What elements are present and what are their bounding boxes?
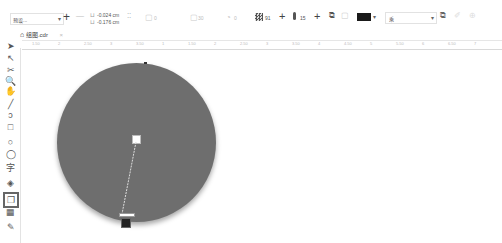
merge-mode-value: 乘 [389,15,394,22]
interactive-fill-tool-icon: ◈ [7,178,14,188]
ellipse-tool-icon: ○ [8,137,13,147]
home-icon: ⌂ [20,31,24,38]
ruler-tick-label: 3.50 [136,41,144,46]
field-3[interactable]: 0 [234,15,237,21]
document-tab[interactable]: ⌂ 组图.cdr × [20,30,63,40]
eyedropper-tool[interactable]: ✎ [4,221,17,234]
field-1[interactable]: 0 [154,15,157,21]
rectangle-tool[interactable]: □ [4,121,17,134]
ruler-tick-label: 1.50 [188,41,196,46]
opacity-slider[interactable] [119,213,135,217]
opacity-icon [255,13,263,21]
ruler-tick-label: 2.50 [240,41,248,46]
crop-tool-icon: ✂ [7,65,15,75]
shadow-direction-icon[interactable]: ▢ [145,13,153,22]
feather-icon [293,12,296,20]
ruler-tick-label: 2 [58,41,60,46]
preset-dropdown[interactable]: 预设... ▾ [10,13,64,25]
chevron-down-icon: ▾ [58,15,61,22]
pan-tool[interactable]: ✋ [4,85,17,98]
shadow-end-handle[interactable] [121,218,131,228]
shape-tool-icon: ↖ [7,53,15,63]
eyedropper-tool-icon: ✎ [7,222,15,232]
copy-shadow-icon[interactable]: ⧉ [440,11,446,21]
polygon-tool[interactable]: ◯ [4,148,17,161]
add-preset-button[interactable]: + [63,10,70,24]
shadow-color-chevron-icon[interactable]: ▾ [373,13,376,20]
pan-tool-icon: ✋ [5,86,16,96]
clear-shadow-icon[interactable]: ✐ [454,11,461,20]
ruler-tick-label: 3.50 [292,41,300,46]
document-tab-label: 组图.cdr [26,32,48,38]
preset-dropdown-value: 预设... [13,16,27,23]
opacity-increase-button[interactable]: + [279,10,285,22]
text-tool-icon: 字 [6,163,15,173]
ruler-tick-label: 1 [162,41,164,46]
ruler-tick-label: 3 [110,41,112,46]
interactive-fill-tool[interactable]: ◈ [4,177,17,190]
feather-field[interactable]: 15 [300,15,306,21]
horizontal-ruler: 1.5022.5033.5011.5022.5033.5044.5055.506… [22,40,502,50]
remove-preset-button[interactable]: — [76,11,84,20]
shadow-color-swatch[interactable] [357,13,371,21]
polygon-tool-icon: ◯ [6,149,16,159]
field-2[interactable]: 30 [198,15,204,21]
chevron-down-icon: ▾ [431,14,434,21]
transparency-tool[interactable]: ▦ [4,206,17,219]
ruler-tick-label: 7 [474,41,476,46]
remove-icon[interactable]: ⊕ [469,11,476,20]
ruler-tick-label: 4.50 [344,41,352,46]
close-tab-icon[interactable]: × [60,32,64,38]
lock-ratio-icon[interactable]: ⁚⁚ [127,12,131,20]
ruler-tick-label: 5 [370,41,372,46]
offset-y-field[interactable]: -0.176 cm [97,19,119,25]
ruler-tick-label: 3 [266,41,268,46]
transparency-tool-icon: ▦ [6,207,15,217]
feather-edges-icon[interactable]: ▢ [341,11,349,20]
offset-x-icon: ⊔ [90,11,95,18]
ruler-tick-label: 4 [318,41,320,46]
ruler-tick-label: 6.50 [448,41,456,46]
shadow-stretch-icon[interactable]: ◔ [226,13,231,22]
ruler-tick-label: 1.50 [32,41,40,46]
ruler-tick-label: 6 [422,41,424,46]
ruler-tick-label: 5.50 [396,41,404,46]
toolbox: ➤↖✂🔍✋╱ↄ□○◯字◈❐▦✎ [0,40,20,243]
top-node[interactable] [144,62,147,64]
ruler-tick-label: 2 [214,41,216,46]
shadow-angle-icon[interactable]: ▢ [190,13,198,22]
opacity-field[interactable]: 91 [265,15,271,21]
rectangle-tool-icon: □ [8,122,13,132]
ruler-tick-label: 2.50 [84,41,92,46]
feather-increase-button[interactable]: + [314,10,320,22]
feather-direction-icon[interactable]: ⧉ [329,11,335,21]
artistic-media-tool-icon: ↄ [8,110,13,120]
property-bar: 预设... ▾ + — ⊔ -0.024 cm ⊔ -0.176 cm ⁚⁚ ▢… [0,0,502,30]
merge-mode-dropdown[interactable]: 乘 ▾ [385,12,437,24]
drop-shadow-tool-icon: ❐ [7,195,15,205]
offset-y-icon: ⊔ [90,18,95,25]
shadow-direction-line [118,140,140,216]
freehand-tool-icon: ╱ [8,99,13,109]
pick-tool-icon: ➤ [7,41,15,51]
offset-x-field[interactable]: -0.024 cm [97,12,119,18]
text-tool[interactable]: 字 [4,162,17,175]
